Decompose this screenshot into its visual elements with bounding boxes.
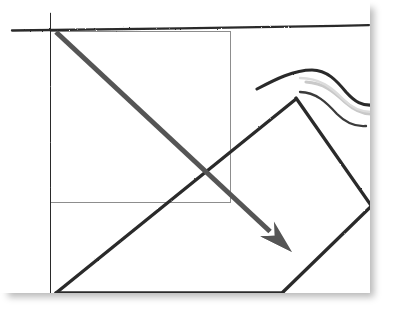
diagonal-arrow-shaft <box>56 32 270 232</box>
arrow-head-fill <box>260 236 292 252</box>
sketch-stage: Hand-drawn geometry sketch <box>0 0 393 317</box>
rotated-square-outline <box>56 98 372 293</box>
vertical-axis-line <box>50 14 51 293</box>
wavy-s-curve-light <box>306 82 372 114</box>
horizontal-axis-line <box>12 25 369 30</box>
thin-reference-rectangle <box>51 32 231 203</box>
wavy-s-curve-dark <box>257 70 373 105</box>
sketch-drawing <box>0 0 393 317</box>
